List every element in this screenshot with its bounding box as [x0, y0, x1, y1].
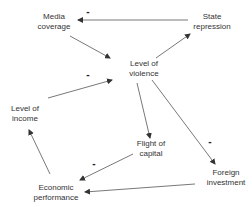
node-label-line: repression [193, 22, 230, 32]
node-label-line: Level of [129, 59, 158, 69]
edge-violence-to-state [156, 34, 190, 58]
node-level-of-violence: Level of violence [129, 59, 158, 79]
node-state-repression: State repression [193, 12, 230, 32]
sign-negative-state-media: - [86, 8, 89, 16]
node-flight-of-capital: Flight of capital [137, 139, 165, 159]
node-label-line: capital [137, 149, 165, 159]
edge-flight-to-economic [80, 154, 133, 180]
node-label-line: performance [34, 193, 79, 203]
edge-economic-to-income [29, 130, 50, 174]
node-label-line: Economic [34, 183, 79, 193]
edge-violence-to-flight [137, 83, 150, 138]
node-economic-performance: Economic performance [34, 183, 79, 203]
node-label-line: Level of [11, 104, 39, 114]
node-label-line: State [193, 12, 230, 22]
node-media-coverage: Media coverage [38, 12, 71, 32]
sign-negative-flight-economic: - [92, 160, 95, 168]
node-foreign-investment: Foreign investment [207, 168, 246, 188]
node-label-line: Flight of [137, 139, 165, 149]
node-label-line: coverage [38, 22, 71, 32]
edge-foreign-to-economic [85, 184, 195, 192]
node-label-line: violence [129, 69, 158, 79]
sign-negative-income-violence: - [86, 71, 89, 79]
edge-media-to-violence [70, 36, 110, 58]
node-level-of-income: Level of income [11, 104, 39, 124]
edge-income-to-violence [48, 80, 112, 98]
node-label-line: Media [38, 12, 71, 22]
node-label-line: Foreign [207, 168, 246, 178]
node-label-line: investment [207, 178, 246, 188]
node-label-line: income [11, 114, 39, 124]
sign-negative-violence-foreign: - [208, 138, 211, 146]
